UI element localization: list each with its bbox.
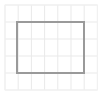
figure-canvas: Rectangle outline on light graph-paper g… — [0, 0, 102, 95]
grid-figure — [0, 0, 102, 95]
figure-background — [0, 0, 102, 95]
